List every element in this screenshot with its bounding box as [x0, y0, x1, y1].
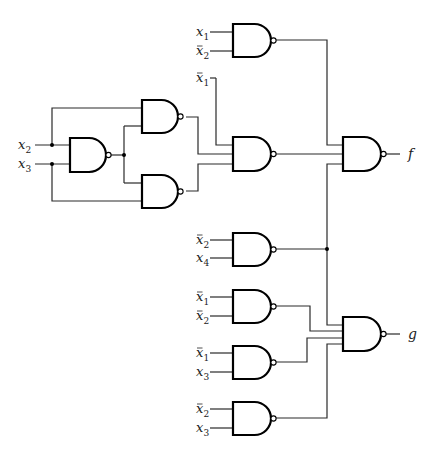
- nand-gate-body: [233, 137, 271, 171]
- wire: [186, 164, 233, 191]
- wire: [216, 78, 233, 145]
- wire: [276, 40, 343, 145]
- nand-gate-body: [233, 233, 271, 266]
- gate-g4: [233, 290, 276, 323]
- inversion-bubble-icon: [106, 152, 111, 157]
- gate-g2: [233, 137, 276, 171]
- input-label-in_g6_b: x3: [196, 420, 210, 438]
- wire: [327, 164, 343, 325]
- output-f: f: [407, 146, 416, 162]
- input-label-in_g4_a: x1: [196, 289, 209, 307]
- wire: [186, 117, 233, 154]
- nand-gate-body: [233, 290, 271, 323]
- input-label-in_g3_b: x4: [196, 250, 210, 268]
- gate-f: [343, 137, 386, 171]
- junction-dot-icon: [50, 143, 54, 147]
- nand-gate-body: [70, 138, 106, 172]
- wire: [276, 306, 343, 331]
- input-label-in_g1_b: x2: [196, 43, 209, 61]
- wire: [276, 344, 343, 418]
- variable-subscript: 1: [204, 78, 210, 88]
- wire: [276, 338, 343, 362]
- nand-gate-body: [233, 24, 271, 57]
- nand-gate-body: [142, 100, 178, 133]
- variable-subscript: 2: [204, 51, 210, 61]
- junction-dot-icon: [50, 162, 54, 166]
- input-label-in_x3: x3: [18, 156, 32, 174]
- variable-subscript: 2: [204, 409, 210, 419]
- gate-g1: [233, 24, 276, 57]
- variable-subscript: 3: [204, 372, 210, 382]
- variable-subscript: 4: [204, 258, 210, 268]
- input-label-in_g3_a: x2: [196, 232, 209, 250]
- inversion-bubble-icon: [271, 38, 276, 43]
- inversion-bubble-icon: [271, 416, 276, 421]
- nand-gate-body: [343, 137, 381, 171]
- variable-subscript: 2: [204, 240, 210, 250]
- inversion-bubble-icon: [271, 360, 276, 365]
- wires: [35, 32, 400, 428]
- logic-circuit-diagram: x1x2x1x2x3x2x4x1x2x1x3x2x3 fg NAND-gate …: [0, 0, 435, 454]
- variable-subscript: 1: [204, 297, 210, 307]
- input-label-in_g4_b: x2: [196, 308, 209, 326]
- inversion-bubble-icon: [271, 304, 276, 309]
- variable-subscript: 1: [204, 353, 210, 363]
- gate-gb: [142, 100, 183, 133]
- inversion-bubble-icon: [381, 151, 386, 156]
- input-label-in_g5_b: x3: [196, 364, 210, 382]
- output-labels: fg: [407, 146, 417, 342]
- circuit-svg: x1x2x1x2x3x2x4x1x2x1x3x2x3 fg: [0, 0, 435, 454]
- input-label-in_g1_a: x1: [196, 24, 209, 42]
- variable-subscript: 1: [204, 32, 210, 42]
- nand-gate-body: [142, 175, 178, 208]
- nand-gates: [70, 24, 386, 435]
- variable-subscript: 3: [204, 428, 210, 438]
- output-g: g: [408, 326, 417, 342]
- inversion-bubble-icon: [178, 114, 183, 119]
- junction-dot-icon: [122, 153, 126, 157]
- junction-dot-icon: [325, 247, 329, 251]
- variable-subscript: 2: [204, 316, 210, 326]
- gate-g3: [233, 233, 276, 266]
- variable-subscript: 3: [26, 164, 32, 174]
- gate-gc: [142, 175, 183, 208]
- gate-g5: [233, 346, 276, 379]
- input-label-in_x2: x2: [18, 137, 31, 155]
- nand-gate-body: [233, 402, 271, 435]
- gate-g: [343, 317, 386, 351]
- gate-g6: [233, 402, 276, 435]
- nand-gate-body: [233, 346, 271, 379]
- input-labels: x1x2x1x2x3x2x4x1x2x1x3x2x3: [18, 24, 210, 438]
- nand-gate-body: [343, 317, 381, 351]
- input-label-in_g2_a: x1: [196, 70, 209, 88]
- variable-subscript: 2: [26, 145, 32, 155]
- inversion-bubble-icon: [178, 189, 183, 194]
- inversion-bubble-icon: [271, 151, 276, 156]
- inversion-bubble-icon: [381, 331, 386, 336]
- input-label-in_g5_a: x1: [196, 345, 209, 363]
- input-label-in_g6_a: x2: [196, 401, 209, 419]
- inversion-bubble-icon: [271, 247, 276, 252]
- gate-ga: [70, 138, 111, 172]
